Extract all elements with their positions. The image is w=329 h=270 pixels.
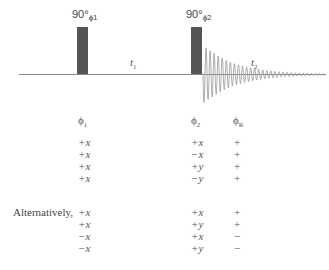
alt-row-2-phi1: +x: [78, 218, 90, 230]
alt-row-3-phi2: +x: [191, 230, 203, 242]
pulse-1-bar: [77, 27, 88, 74]
alt-row-4-phiR: −: [234, 242, 240, 254]
phase-row-1-phi1: +x: [78, 136, 90, 148]
pulse-sequence-drawing: [0, 0, 329, 270]
pulse-1-label: 90°ϕ1: [72, 8, 98, 22]
phase-row-2-phi1: +x: [78, 148, 90, 160]
alt-row-2-phi2: +y: [191, 218, 203, 230]
phase-row-1-phi2: +x: [191, 136, 203, 148]
fid-signal: [203, 48, 326, 102]
phase-header-phi2: ϕ2: [191, 114, 200, 129]
phase-header-phi1: ϕ1: [78, 114, 87, 129]
alt-row-1-phiR: +: [234, 206, 240, 218]
phase-row-1-phiR: +: [234, 136, 240, 148]
phase-header-phiR: ϕR: [233, 114, 243, 129]
phase-row-4-phiR: +: [234, 172, 240, 184]
phase-row-2-phiR: +: [234, 148, 240, 160]
t2-acquisition-label: t2: [251, 56, 258, 71]
alt-row-1-phi2: +x: [191, 206, 203, 218]
phase-row-4-phi1: +x: [78, 172, 90, 184]
alt-row-4-phi2: +y: [191, 242, 203, 254]
alt-row-2-phiR: +: [234, 218, 240, 230]
alt-row-3-phi1: −x: [78, 230, 90, 242]
phase-row-2-phi2: −x: [191, 148, 203, 160]
phase-row-3-phi1: +x: [78, 160, 90, 172]
pulse-2-bar: [191, 27, 202, 74]
phase-row-3-phiR: +: [234, 160, 240, 172]
alt-row-1-phi1: +x: [78, 206, 90, 218]
phase-row-3-phi2: +y: [191, 160, 203, 172]
phase-row-4-phi2: −y: [191, 172, 203, 184]
alternatively-label: Alternatively,: [13, 206, 73, 218]
t1-delay-label: t1: [130, 56, 137, 71]
alt-row-3-phiR: −: [234, 230, 240, 242]
pulse-2-label: 90°ϕ2: [186, 8, 212, 22]
alt-row-4-phi1: −x: [78, 242, 90, 254]
